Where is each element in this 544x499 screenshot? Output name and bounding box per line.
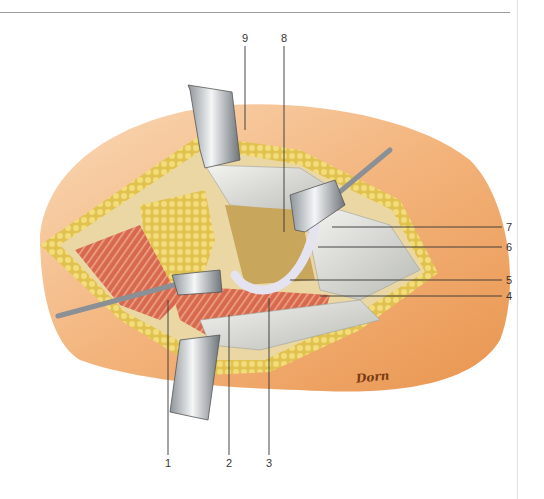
label-8: 8 <box>281 33 287 44</box>
label-4: 4 <box>506 291 512 302</box>
label-6: 6 <box>506 242 512 253</box>
surgical-illustration <box>0 0 544 499</box>
label-3: 3 <box>266 458 272 469</box>
label-2: 2 <box>226 458 232 469</box>
label-5: 5 <box>506 275 512 286</box>
label-9: 9 <box>242 33 248 44</box>
label-1: 1 <box>165 458 171 469</box>
label-7: 7 <box>506 222 512 233</box>
